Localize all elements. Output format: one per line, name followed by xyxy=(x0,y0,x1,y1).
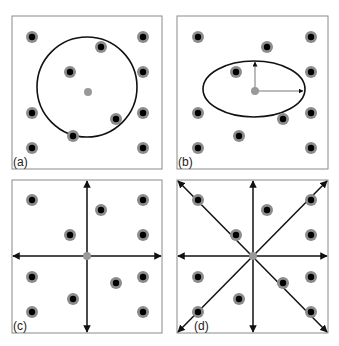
sample-point xyxy=(305,31,317,43)
sample-point xyxy=(137,229,149,241)
sample-point xyxy=(95,41,107,53)
neighborhood-search-figure: (a) (b) (c) (d) xyxy=(0,0,339,346)
sample-point xyxy=(233,293,245,305)
panel-a: (a) xyxy=(12,16,162,169)
sample-point xyxy=(261,41,273,53)
sample-point xyxy=(95,204,107,216)
sample-point xyxy=(192,306,204,318)
sample-point xyxy=(26,194,38,206)
search-circle xyxy=(37,37,137,137)
query-point xyxy=(83,252,91,260)
sample-point xyxy=(305,194,317,206)
sample-point xyxy=(305,229,317,241)
sample-point xyxy=(277,113,289,125)
panel-c-label: (c) xyxy=(13,319,27,333)
sample-point xyxy=(230,66,242,78)
sample-point xyxy=(26,271,38,283)
sample-point xyxy=(230,229,242,241)
sample-point xyxy=(110,113,122,125)
sample-point xyxy=(110,277,122,289)
sample-point xyxy=(192,31,204,43)
panel-d-label: (d) xyxy=(194,319,209,333)
sample-point xyxy=(137,306,149,318)
sample-point xyxy=(137,107,149,119)
query-point xyxy=(251,87,259,95)
sample-point xyxy=(192,142,204,154)
sample-point xyxy=(137,66,149,78)
sample-point xyxy=(192,271,204,283)
sample-point xyxy=(137,271,149,283)
sample-point xyxy=(305,142,317,154)
sample-point xyxy=(137,31,149,43)
query-point xyxy=(84,88,92,96)
sample-point xyxy=(137,142,149,154)
panel-b: (b) xyxy=(177,16,328,169)
panel-b-label: (b) xyxy=(178,155,193,169)
sample-point xyxy=(305,107,317,119)
sample-point xyxy=(64,66,76,78)
sample-point xyxy=(67,293,79,305)
sample-point xyxy=(277,277,289,289)
panel-a-label: (a) xyxy=(13,155,28,169)
sample-point xyxy=(192,194,204,206)
sample-point xyxy=(67,130,79,142)
panel-d: (d) xyxy=(177,180,328,333)
panel-c: (c) xyxy=(12,180,162,333)
sample-point xyxy=(26,107,38,119)
sample-point xyxy=(261,204,273,216)
sample-point xyxy=(233,130,245,142)
sample-point xyxy=(26,306,38,318)
sample-point xyxy=(192,107,204,119)
sample-point xyxy=(305,66,317,78)
query-point xyxy=(249,252,257,260)
sample-point xyxy=(137,194,149,206)
sample-point xyxy=(26,142,38,154)
sample-point xyxy=(64,229,76,241)
sample-point xyxy=(305,306,317,318)
sample-point xyxy=(26,31,38,43)
sample-point xyxy=(305,271,317,283)
